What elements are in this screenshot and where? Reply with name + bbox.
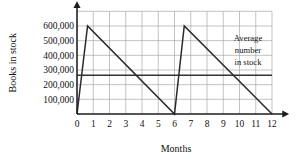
x-tick-label: 11 bbox=[251, 119, 260, 129]
x-tick-label: 0 bbox=[75, 119, 80, 129]
x-tick-label: 10 bbox=[235, 119, 245, 129]
annotation-line-1: Average bbox=[234, 33, 263, 43]
x-axis-title: Months bbox=[161, 143, 192, 154]
y-tick-label: 100,000 bbox=[43, 95, 74, 105]
x-tick-label: 6 bbox=[172, 119, 177, 129]
x-tick-label: 5 bbox=[156, 119, 161, 129]
y-axis-title: Books in stock bbox=[7, 33, 18, 92]
books-in-stock-chart: 100,000200,000300,000400,000500,000600,0… bbox=[0, 0, 298, 161]
y-tick-label: 500,000 bbox=[43, 36, 74, 46]
y-tick-label: 300,000 bbox=[43, 65, 74, 75]
y-tick-label: 200,000 bbox=[43, 80, 74, 90]
x-tick-label: 4 bbox=[140, 119, 145, 129]
annotation-line-2: number bbox=[235, 45, 261, 55]
x-tick-label: 8 bbox=[205, 119, 210, 129]
x-tick-label: 7 bbox=[188, 119, 193, 129]
annotation-line-3: in stock bbox=[235, 57, 263, 67]
x-tick-label: 1 bbox=[91, 119, 96, 129]
average-number-annotation: Average number in stock bbox=[234, 33, 263, 67]
chart-container: 100,000200,000300,000400,000500,000600,0… bbox=[0, 0, 298, 161]
y-tick-label: 400,000 bbox=[43, 51, 74, 61]
x-tick-label: 12 bbox=[267, 119, 277, 129]
x-tick-label: 9 bbox=[221, 119, 226, 129]
x-tick-label: 3 bbox=[123, 119, 128, 129]
x-tick-label: 2 bbox=[107, 119, 112, 129]
y-tick-label: 600,000 bbox=[43, 21, 74, 31]
